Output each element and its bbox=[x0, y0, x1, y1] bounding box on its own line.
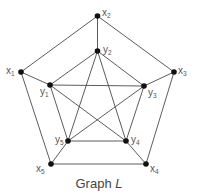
edge-y2-y5 bbox=[68, 51, 98, 141]
edge-y3-y5 bbox=[68, 86, 144, 141]
node-y2 bbox=[95, 48, 101, 54]
graph-caption: Graph L bbox=[0, 176, 198, 191]
graph-diagram bbox=[0, 0, 198, 196]
edge-x1-y1 bbox=[21, 72, 50, 85]
node-x2 bbox=[95, 13, 101, 19]
node-x4 bbox=[143, 161, 149, 167]
node-y5 bbox=[65, 138, 71, 144]
edge-y1-y4 bbox=[50, 85, 126, 141]
edge-x3-y3 bbox=[144, 72, 174, 86]
node-x3 bbox=[171, 69, 177, 75]
edge-x5-x1 bbox=[21, 72, 51, 164]
caption-text: Graph bbox=[76, 176, 112, 191]
edge-x3-x4 bbox=[146, 72, 174, 164]
edge-y3-y4 bbox=[126, 86, 144, 141]
caption-graph-name: L bbox=[115, 176, 122, 191]
node-y4 bbox=[123, 138, 129, 144]
label-x1: x1 bbox=[6, 66, 15, 78]
node-x1 bbox=[18, 69, 24, 75]
label-x3: x3 bbox=[178, 66, 187, 78]
edge-y1-y3 bbox=[50, 85, 144, 86]
edge-y1-y5 bbox=[50, 85, 68, 141]
label-x5: x5 bbox=[36, 164, 45, 176]
edge-x2-x3 bbox=[98, 16, 175, 72]
label-y5: y5 bbox=[55, 135, 64, 147]
edge-y1-y2 bbox=[50, 51, 98, 85]
label-y3: y3 bbox=[148, 88, 157, 100]
label-x4: x4 bbox=[150, 164, 159, 176]
label-y4: y4 bbox=[131, 135, 140, 147]
node-y3 bbox=[141, 83, 147, 89]
label-x2: x2 bbox=[102, 8, 111, 20]
label-y2: y2 bbox=[103, 45, 112, 57]
label-y1: y1 bbox=[40, 87, 49, 99]
edge-x1-x2 bbox=[21, 16, 98, 72]
edge-y2-y4 bbox=[98, 51, 127, 141]
node-x5 bbox=[48, 161, 54, 167]
